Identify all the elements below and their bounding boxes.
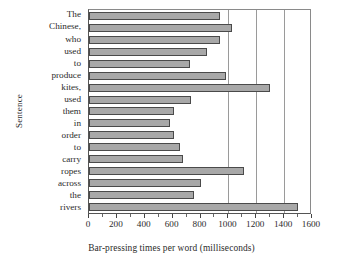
y-axis-tick-label: ropes [18,166,84,178]
bar-row [89,82,310,94]
bar [89,60,190,68]
bar-row [89,153,310,165]
bar [89,84,270,92]
bar [89,12,220,20]
x-tick-label: 1400 [274,219,292,229]
bar [89,179,201,187]
bar-row [89,141,310,153]
y-axis-tick-label: order [18,130,84,142]
bar-row [89,34,310,46]
x-tick-major [144,214,145,218]
y-axis-tick-label: the [18,190,84,202]
y-axis-tick-label: carry [18,154,84,166]
x-tick-major [200,214,201,218]
bar [89,191,194,199]
x-tick-major [227,214,228,218]
bar-row [89,165,310,177]
x-tick-minor [241,214,242,217]
x-tick-label: 1200 [246,219,264,229]
x-tick-label: 200 [109,219,123,229]
y-axis-tick-label: kites, [18,81,84,93]
x-tick-minor [158,214,159,217]
x-tick-minor [269,214,270,217]
bar [89,155,183,163]
bar-row [89,10,310,22]
x-tick-label: 600 [165,219,179,229]
y-axis-tick-label: rivers [18,202,84,214]
bar [89,143,180,151]
x-tick-minor [213,214,214,217]
bar [89,36,220,44]
bar-row [89,94,310,106]
y-axis-tick-label: The [18,9,84,21]
y-axis-tick-label: to [18,142,84,154]
x-tick-major [283,214,284,218]
y-axis-tick-label: Chinese, [18,21,84,33]
x-tick-label: 1000 [218,219,236,229]
bar [89,131,174,139]
bar [89,24,232,32]
bar-row [89,129,310,141]
y-axis-tick-label: produce [18,69,84,81]
bar-row [89,70,310,82]
y-axis-tick-label: who [18,33,84,45]
y-axis-tick-label: across [18,178,84,190]
x-tick-label: 800 [193,219,207,229]
x-axis-title: Bar-pressing times per word (millisecond… [0,243,343,253]
x-axis-tick-labels: 02004006008001000120014001600 [88,219,311,233]
y-axis-tick-label: to [18,57,84,69]
bar-row [89,201,310,213]
bar [89,167,244,175]
y-axis-tick-label: used [18,93,84,105]
bar-row [89,58,310,70]
x-tick-major [116,214,117,218]
x-tick-major [255,214,256,218]
bar-row [89,46,310,58]
y-axis-tick-label: used [18,45,84,57]
x-tick-minor [297,214,298,217]
bar [89,107,174,115]
x-tick-minor [102,214,103,217]
x-tick-major [172,214,173,218]
bar [89,72,226,80]
x-tick-major [311,214,312,218]
bar [89,48,207,56]
bar-row [89,177,310,189]
bar-row [89,106,310,118]
bar-row [89,22,310,34]
y-axis-tick-label: them [18,106,84,118]
bar [89,96,191,104]
bar [89,119,170,127]
bar-series [89,10,310,213]
x-tick-label: 0 [86,219,91,229]
bar [89,203,298,211]
bar-chart: Sentence TheChinese,whousedtoproducekite… [0,0,343,270]
x-tick-major [88,214,89,218]
y-axis-tick-labels: TheChinese,whousedtoproducekites,usedthe… [18,9,84,214]
bar-row [89,117,310,129]
x-tick-minor [130,214,131,217]
x-tick-label: 1600 [302,219,320,229]
plot-area [88,9,311,214]
x-tick-label: 400 [137,219,151,229]
y-axis-tick-label: in [18,118,84,130]
bar-row [89,189,310,201]
x-tick-minor [186,214,187,217]
